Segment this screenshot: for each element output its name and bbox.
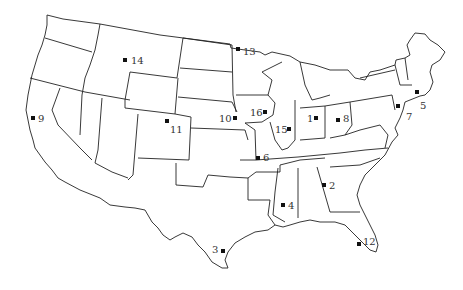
marker-label: 14 [131,55,144,66]
marker-square-icon [236,47,240,51]
map-marker-6: 6 [256,152,269,163]
marker-square-icon [256,156,260,160]
marker-square-icon [415,90,419,94]
marker-square-icon [233,116,237,120]
marker-label: 3 [212,244,218,255]
marker-square-icon [221,249,225,253]
marker-square-icon [281,203,285,207]
us-map: 12345678910111213141516 [0,0,463,290]
map-marker-4: 4 [281,200,294,211]
map-marker-13: 13 [236,46,256,57]
map-marker-16: 16 [250,107,267,118]
marker-square-icon [357,242,361,246]
marker-label: 11 [170,124,183,135]
marker-label: 6 [263,152,269,163]
map-marker-15: 15 [275,124,291,135]
state-borders [26,15,445,268]
marker-label: 5 [420,100,426,111]
map-marker-9: 9 [31,113,44,124]
map-marker-2: 2 [322,180,335,191]
map-marker-5: 5 [415,90,426,111]
map-marker-8: 8 [336,113,349,124]
marker-square-icon [31,116,35,120]
marker-label: 1 [307,113,313,124]
map-marker-10: 10 [219,113,237,124]
marker-label: 13 [243,46,256,57]
marker-square-icon [396,104,400,108]
marker-label: 12 [363,236,376,247]
marker-label: 7 [406,111,412,122]
marker-square-icon [165,119,169,123]
marker-square-icon [322,183,326,187]
marker-square-icon [336,118,340,122]
marker-square-icon [314,116,318,120]
marker-label: 9 [38,113,44,124]
marker-label: 15 [275,124,288,135]
map-marker-1: 1 [307,113,318,124]
marker-label: 4 [288,200,294,211]
marker-label: 8 [343,113,349,124]
marker-label: 16 [250,107,263,118]
marker-square-icon [263,110,267,114]
marker-square-icon [123,58,127,62]
map-marker-3: 3 [212,244,225,255]
map-marker-11: 11 [165,119,183,135]
map-marker-12: 12 [357,236,376,247]
marker-label: 10 [219,113,232,124]
marker-label: 2 [329,180,335,191]
map-marker-14: 14 [123,55,144,66]
